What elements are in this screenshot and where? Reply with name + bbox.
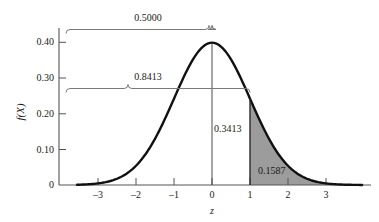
- normal-density-curve: [77, 43, 362, 185]
- x-axis-title: z: [198, 205, 226, 216]
- annotation-0-5000: 0.5000: [112, 13, 184, 23]
- brace-0-5000: [66, 26, 216, 34]
- x-tick-label-neg3: –3: [84, 190, 112, 200]
- y-tick-label-0: 0: [22, 180, 54, 190]
- x-tick-label-neg2: –2: [122, 190, 150, 200]
- x-tick-label-0: 0: [198, 190, 226, 200]
- annotation-0-8413: 0.8413: [112, 72, 184, 82]
- brace-0-8413: [66, 85, 250, 93]
- x-tick-label-3: 3: [312, 190, 340, 200]
- x-tick-label-2: 2: [274, 190, 302, 200]
- annotation-0-3413: 0.3413: [214, 124, 254, 134]
- y-tick-label-010: 0.10: [22, 145, 54, 155]
- annotation-0-1587: 0.1587: [258, 166, 302, 176]
- y-tick-label-030: 0.30: [22, 73, 54, 83]
- y-tick-label-040: 0.40: [22, 37, 54, 47]
- distribution-plot: [0, 0, 379, 222]
- x-tick-label-neg1: –1: [160, 190, 188, 200]
- x-tick-label-1: 1: [236, 190, 264, 200]
- normal-distribution-figure: f(X) 0.40 0.30 0.20 0.10 0 –3 –2 –1 0 1 …: [0, 0, 379, 222]
- y-tick-label-020: 0.20: [22, 109, 54, 119]
